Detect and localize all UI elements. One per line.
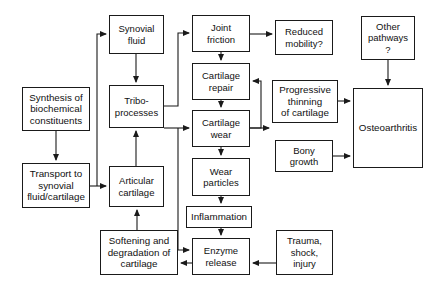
node-label-enzyme: Enzyme release bbox=[204, 245, 238, 268]
node-repair: Cartilage repair bbox=[192, 63, 250, 100]
node-label-joint: Joint friction bbox=[207, 22, 235, 45]
node-articular: Articular cartilage bbox=[109, 166, 164, 207]
node-label-osteo: Osteoarthritis bbox=[359, 122, 417, 134]
node-trauma: Trauma, shock, injury bbox=[276, 230, 333, 275]
node-label-reduced: Reduced mobility? bbox=[285, 26, 323, 49]
flowchart-canvas: Synthesis of biochemical constituentsTra… bbox=[0, 0, 441, 292]
connector-tribo-to-joint bbox=[164, 33, 189, 106]
node-bony: Bony growth bbox=[275, 140, 333, 172]
node-joint: Joint friction bbox=[192, 15, 250, 52]
node-particles: Wear particles bbox=[192, 158, 250, 196]
node-other: Other pathways ? bbox=[361, 16, 415, 60]
node-label-inflammation: Inflammation bbox=[191, 211, 247, 223]
node-label-wear: Cartilage wear bbox=[202, 117, 240, 140]
node-synthesis: Synthesis of biochemical constituents bbox=[22, 87, 90, 131]
node-osteo: Osteoarthritis bbox=[353, 88, 423, 168]
node-label-particles: Wear particles bbox=[203, 166, 238, 189]
node-label-tribo: Tribo- processes bbox=[115, 95, 158, 118]
node-label-transport: Transport to synovial fluid/cartilage bbox=[27, 168, 85, 203]
node-label-other: Other pathways ? bbox=[368, 21, 408, 56]
connector-transport-to-synovial bbox=[97, 34, 106, 186]
node-reduced: Reduced mobility? bbox=[275, 20, 333, 55]
node-label-articular: Articular cartilage bbox=[119, 175, 155, 198]
connector-wear-to-repair bbox=[250, 81, 261, 128]
node-softening: Softening and degradation of cartilage bbox=[100, 230, 178, 275]
node-inflammation: Inflammation bbox=[186, 206, 252, 228]
node-label-trauma: Trauma, shock, injury bbox=[287, 235, 322, 270]
node-label-softening: Softening and degradation of cartilage bbox=[108, 235, 171, 270]
connector-wear_branch-to-enzyme bbox=[178, 128, 189, 250]
node-progressive: Progressive thinning of cartilage bbox=[272, 80, 338, 123]
node-transport: Transport to synovial fluid/cartilage bbox=[22, 163, 90, 208]
node-label-repair: Cartilage repair bbox=[202, 70, 240, 93]
node-label-progressive: Progressive thinning of cartilage bbox=[279, 84, 331, 119]
node-synovial: Synovial fluid bbox=[109, 15, 164, 54]
node-label-synthesis: Synthesis of biochemical constituents bbox=[29, 92, 82, 127]
node-tribo: Tribo- processes bbox=[109, 85, 164, 128]
node-wear: Cartilage wear bbox=[192, 110, 250, 147]
node-label-bony: Bony growth bbox=[290, 145, 319, 168]
node-enzyme: Enzyme release bbox=[192, 238, 250, 275]
node-label-synovial: Synovial fluid bbox=[119, 23, 155, 46]
